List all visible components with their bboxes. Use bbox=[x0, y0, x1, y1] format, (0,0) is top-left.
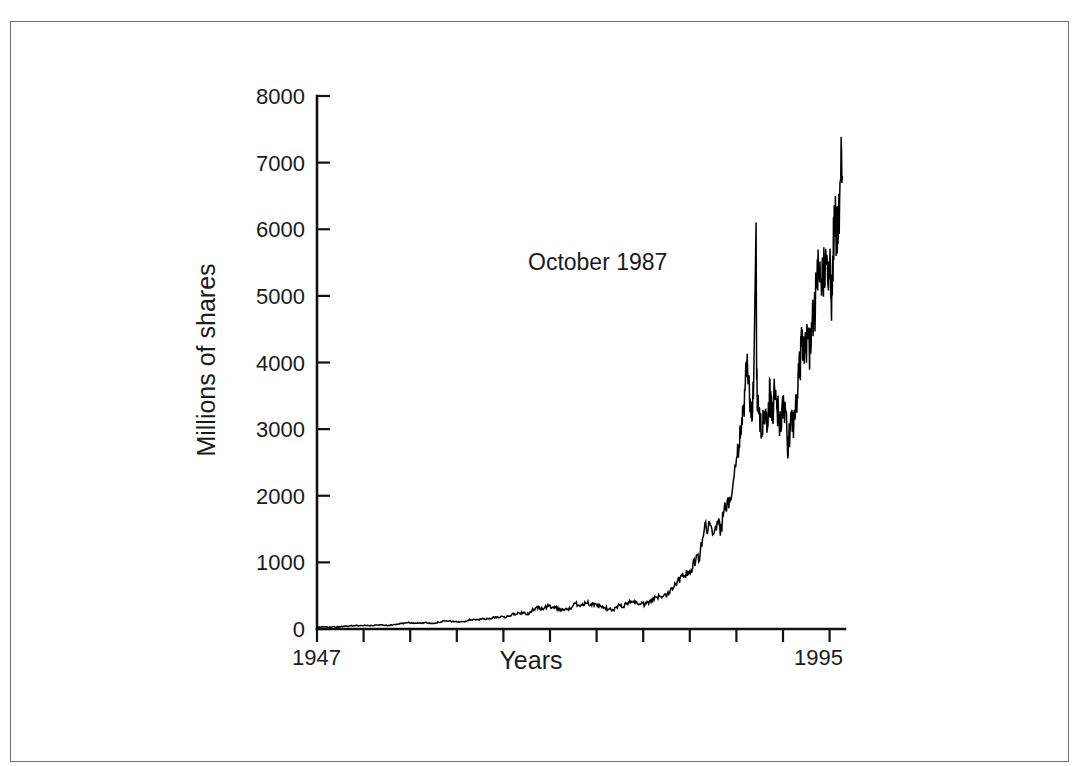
figure-page: 010002000300040005000600070008000 Octobe… bbox=[0, 0, 1089, 766]
y-tick-label: 3000 bbox=[256, 417, 305, 442]
x-axis-end-tick-label: 1995 bbox=[794, 645, 843, 670]
y-axis-ticks: 010002000300040005000600070008000 bbox=[256, 84, 330, 642]
y-tick-label: 8000 bbox=[256, 84, 305, 109]
y-tick-label: 7000 bbox=[256, 151, 305, 176]
axis-lines bbox=[317, 96, 845, 629]
y-tick-label: 5000 bbox=[256, 284, 305, 309]
y-tick-label: 0 bbox=[293, 617, 305, 642]
y-tick-label: 1000 bbox=[256, 550, 305, 575]
x-axis-ticks bbox=[317, 629, 830, 642]
y-axis-title: Millions of shares bbox=[192, 263, 220, 456]
data-series-line bbox=[317, 137, 842, 628]
y-tick-label: 4000 bbox=[256, 351, 305, 376]
y-tick-label: 6000 bbox=[256, 217, 305, 242]
annotation-october-1987: October 1987 bbox=[528, 249, 667, 275]
chart-canvas: 010002000300040005000600070008000 Octobe… bbox=[0, 0, 1089, 766]
x-axis-start-tick-label: 1947 bbox=[292, 645, 341, 670]
x-axis-title: Years bbox=[499, 646, 562, 674]
y-tick-label: 2000 bbox=[256, 484, 305, 509]
